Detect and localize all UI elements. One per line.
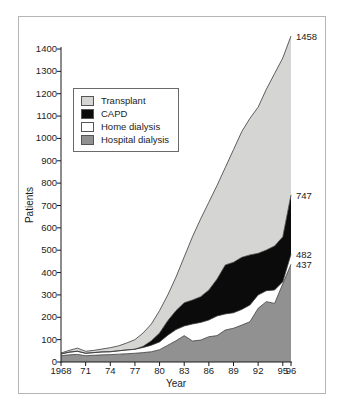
stacked-area-chart — [0, 0, 340, 413]
figure-page: Patients Year 01002003004005006007008009… — [0, 0, 340, 413]
